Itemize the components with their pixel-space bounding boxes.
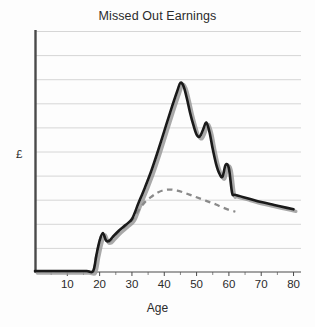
x-axis-tick-label: 60 [222, 278, 235, 290]
series-shadow-full-career [37, 85, 296, 275]
chart-figure: Missed Out Earnings £ 1020304050607080 A… [0, 0, 315, 327]
x-axis-tick-label: 30 [126, 278, 139, 290]
x-axis-tick-label: 70 [255, 278, 268, 290]
x-axis-tick-label: 80 [287, 278, 300, 290]
x-axis-tick-label: 50 [190, 278, 203, 290]
x-axis-tick-label: 40 [158, 278, 171, 290]
x-axis-label: Age [0, 301, 315, 315]
x-axis-tick-label: 10 [61, 278, 74, 290]
gridlines [35, 32, 301, 249]
data-series [35, 83, 296, 275]
x-axis-tick-label: 20 [93, 278, 106, 290]
series-line-full-career [35, 83, 294, 273]
series-line-reduced-earnings [35, 190, 235, 273]
